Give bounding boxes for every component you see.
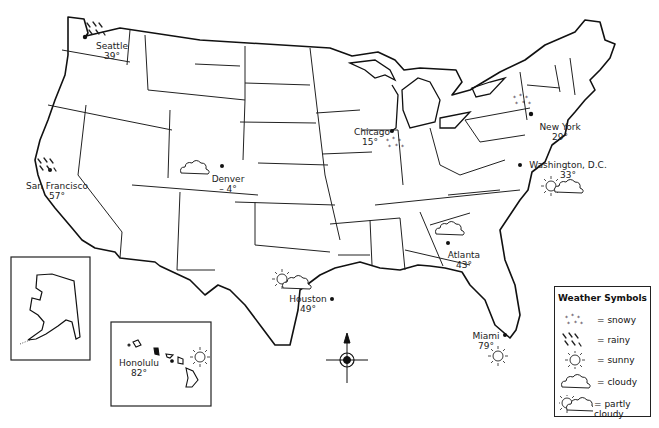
legend-item-snowy: = snowy — [559, 311, 649, 329]
city-temp: 15° — [352, 137, 392, 147]
snowy-icon — [559, 311, 593, 329]
city-temp: 39° — [92, 51, 132, 61]
legend-title: Weather Symbols — [555, 293, 650, 303]
compass-rose — [326, 333, 368, 383]
city-name: Chicago — [352, 127, 392, 137]
city-temp: 57° — [22, 191, 92, 201]
legend-item-partly-cloudy: = partly cloudy — [559, 395, 649, 413]
city-chicago: Chicago 15° — [352, 127, 392, 147]
city-temp: 33° — [528, 170, 608, 180]
city-houston: Houston 49° — [288, 294, 328, 314]
partly-cloudy-icon — [559, 395, 593, 413]
city-name: Houston — [288, 294, 328, 304]
great-lakes — [350, 60, 505, 132]
legend-item-cloudy: = cloudy — [559, 373, 649, 391]
legend-item-rainy: = rainy — [559, 331, 649, 349]
city-temp: – 4° — [208, 184, 248, 194]
city-name: Washington, D.C. — [528, 160, 608, 170]
city-name: New York — [535, 122, 585, 132]
city-temp: 43° — [444, 260, 484, 270]
city-name: San Francisco — [22, 181, 92, 191]
city-name: Miami — [469, 331, 503, 341]
legend-item-sunny: = sunny — [559, 351, 649, 369]
city-temp: 29° — [535, 132, 585, 142]
city-name: Denver — [208, 174, 248, 184]
state-borders — [48, 30, 575, 270]
city-name: Honolulu — [116, 358, 162, 368]
weather-legend: Weather Symbols = snowy = rainy = sunny … — [554, 286, 651, 417]
city-new-york: New York 29° — [535, 122, 585, 142]
city-miami: Miami 79° — [469, 331, 503, 351]
city-honolulu: Honolulu 82° — [116, 358, 162, 378]
city-denver: Denver – 4° — [208, 174, 248, 194]
city-name: Seattle — [92, 41, 132, 51]
sunny-icon — [559, 351, 593, 369]
rainy-icon — [559, 331, 593, 349]
city-temp: 82° — [116, 368, 162, 378]
city-temp: 49° — [288, 304, 328, 314]
city-washington-dc: Washington, D.C. 33° — [528, 160, 608, 180]
city-san-francisco: San Francisco 57° — [22, 181, 92, 201]
city-atlanta: Atlanta 43° — [444, 250, 484, 270]
city-name: Atlanta — [444, 250, 484, 260]
city-seattle: Seattle 39° — [92, 41, 132, 61]
alaska-inset — [11, 257, 90, 360]
city-temp: 79° — [469, 341, 503, 351]
cloudy-icon — [559, 373, 593, 391]
